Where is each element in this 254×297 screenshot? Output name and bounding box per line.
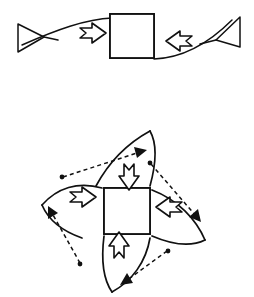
- curved-arm-top-tail: [150, 131, 155, 186]
- panel-rotational: [42, 131, 205, 292]
- hatched-square-sample-bottom: [102, 188, 151, 236]
- bottom-block-arrow: [109, 232, 129, 258]
- node-bottom: [78, 262, 83, 267]
- node-right: [166, 249, 171, 254]
- dashed-vector-lower-right: [120, 251, 167, 285]
- figure-root: [0, 0, 254, 297]
- right-block-arrow: [156, 197, 182, 217]
- right-open-arrowhead: [200, 17, 240, 47]
- panel-uniaxial: [18, 14, 240, 62]
- top-block-arrow: [119, 164, 139, 190]
- figure-canvas: [0, 0, 254, 297]
- left-block-arrow: [80, 23, 106, 43]
- node-top: [148, 161, 153, 166]
- left-block-arrow: [70, 187, 96, 207]
- s-curve-baseline-right: [154, 20, 232, 59]
- curved-arm-right-tail: [152, 236, 205, 244]
- right-block-arrow: [166, 31, 192, 51]
- node-left: [60, 175, 65, 180]
- hatched-square-sample-top: [108, 14, 157, 62]
